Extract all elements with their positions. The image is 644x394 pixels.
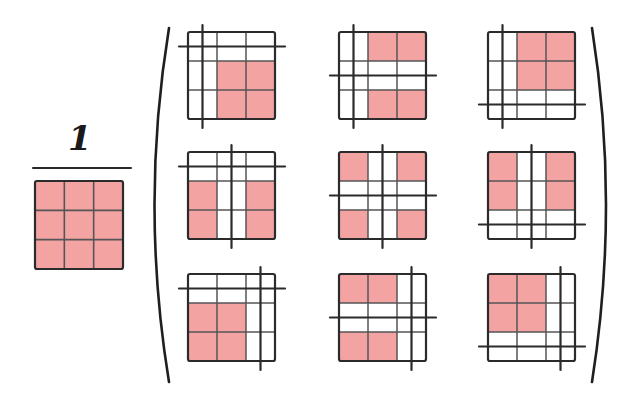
- shaded-cell: [217, 332, 246, 361]
- shaded-cell: [246, 90, 275, 119]
- shaded-cell: [188, 181, 217, 210]
- matrix-cell-1-2: [479, 145, 585, 248]
- right-parenthesis: [592, 28, 606, 382]
- shaded-cell: [546, 152, 575, 181]
- matrix-cell-0-2: [479, 25, 585, 128]
- shaded-cell: [368, 90, 397, 119]
- shaded-cell: [368, 332, 397, 361]
- denominator-grid: [35, 181, 123, 269]
- matrix-cell-0-0: [179, 25, 285, 128]
- shaded-cell: [217, 61, 246, 90]
- shaded-cell: [246, 181, 275, 210]
- matrix-cell-1-1: [330, 145, 436, 248]
- diagram-canvas: [0, 0, 644, 394]
- shaded-cell: [188, 210, 217, 239]
- matrix-cell-2-0: [179, 267, 285, 370]
- shaded-cell: [546, 181, 575, 210]
- shaded-cell: [217, 303, 246, 332]
- shaded-cell: [188, 303, 217, 332]
- shaded-cell: [517, 61, 546, 90]
- shaded-cell: [397, 210, 426, 239]
- shaded-cell: [368, 32, 397, 61]
- shaded-cell: [188, 332, 217, 361]
- left-parenthesis: [155, 28, 170, 382]
- shaded-cell: [217, 90, 246, 119]
- shaded-cell: [397, 152, 426, 181]
- matrix-cell-2-1: [330, 267, 436, 370]
- shaded-cell: [517, 32, 546, 61]
- shaded-region: [35, 181, 123, 269]
- shaded-cell: [397, 32, 426, 61]
- shaded-cell: [488, 152, 517, 181]
- shaded-cell: [368, 274, 397, 303]
- shaded-cell: [488, 303, 517, 332]
- shaded-cell: [339, 332, 368, 361]
- shaded-cell: [488, 181, 517, 210]
- shaded-cell: [546, 32, 575, 61]
- matrix-grid: [179, 25, 585, 370]
- shaded-cell: [397, 90, 426, 119]
- matrix-cell-0-1: [330, 25, 436, 128]
- shaded-cell: [246, 61, 275, 90]
- shaded-cell: [339, 274, 368, 303]
- shaded-cell: [546, 61, 575, 90]
- matrix-cell-2-2: [479, 267, 585, 370]
- shaded-cell: [339, 152, 368, 181]
- shaded-cell: [339, 210, 368, 239]
- shaded-cell: [246, 210, 275, 239]
- shaded-cell: [488, 274, 517, 303]
- matrix-cell-1-0: [179, 145, 285, 248]
- shaded-cell: [517, 274, 546, 303]
- shaded-cell: [517, 303, 546, 332]
